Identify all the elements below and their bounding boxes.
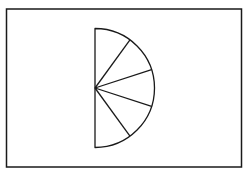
diagram-canvas [0, 0, 247, 174]
sector-divider-line [95, 70, 152, 88]
border-frame [7, 9, 242, 167]
semicircle-figure [95, 29, 155, 148]
sector-divider-line [95, 88, 130, 136]
sector-divider-line [95, 40, 130, 88]
sector-dividers [95, 40, 152, 136]
sector-divider-line [95, 88, 152, 106]
